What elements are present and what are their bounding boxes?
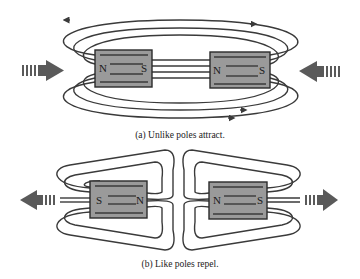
- pole-label: S: [259, 64, 265, 76]
- pole-label: S: [141, 62, 147, 74]
- caption-b: (b) Like poles repel.: [141, 259, 218, 270]
- magnet-a-left: N S: [95, 50, 152, 87]
- panel-a: N S N S (a): [22, 20, 340, 141]
- right-pointing-arrow: [305, 189, 338, 211]
- pole-label: N: [213, 64, 221, 76]
- pole-label: S: [96, 194, 102, 206]
- left-pointing-arrow: [299, 61, 340, 82]
- left-pointing-arrow: [20, 190, 55, 210]
- caption-a: (a) Unlike poles attract.: [135, 130, 225, 141]
- pole-label: N: [99, 62, 107, 74]
- magnet-a-right: N S: [210, 52, 270, 88]
- magnet-diagram: N S N S (a): [0, 0, 360, 279]
- pole-label: S: [257, 194, 263, 206]
- pole-label: N: [136, 194, 144, 206]
- magnet-b-right: N S: [209, 182, 267, 219]
- panel-b: S N N S (b) Like poles re: [20, 150, 338, 270]
- pole-label: N: [213, 194, 221, 206]
- right-pointing-arrow: [22, 60, 64, 81]
- magnet-b-left: S N: [90, 181, 147, 218]
